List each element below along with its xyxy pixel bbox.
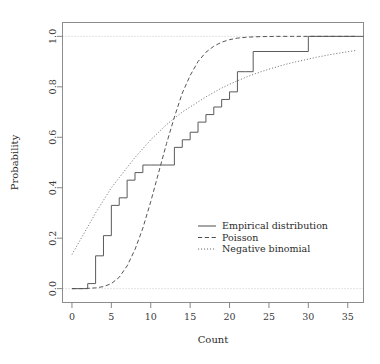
legend-label-2: Negative binomial bbox=[222, 243, 310, 254]
y-tick-label-1: 0.2 bbox=[47, 231, 58, 246]
reference-lines bbox=[63, 36, 364, 288]
legend-label-0: Empirical distribution bbox=[222, 220, 328, 231]
x-tick-label-2: 10 bbox=[145, 311, 157, 322]
y-tick-label-3: 0.6 bbox=[47, 130, 58, 145]
x-tick-label-3: 15 bbox=[184, 311, 196, 322]
x-tick-label-7: 35 bbox=[342, 311, 354, 322]
chart-figure: 051015202530350.00.20.40.60.81.0 CountPr… bbox=[0, 0, 380, 364]
series-poisson bbox=[72, 36, 356, 288]
plot-box bbox=[63, 23, 364, 303]
y-tick-label-0: 0.0 bbox=[47, 281, 58, 296]
chart-legend: Empirical distributionPoissonNegative bi… bbox=[198, 220, 328, 254]
y-tick-label-4: 0.8 bbox=[47, 79, 58, 94]
x-tick-label-5: 25 bbox=[263, 311, 275, 322]
y-tick-label-5: 1.0 bbox=[47, 29, 58, 44]
y-tick-label-2: 0.4 bbox=[47, 180, 58, 195]
y-axis-title: Probability bbox=[9, 134, 20, 190]
data-series bbox=[72, 36, 364, 288]
legend-label-1: Poisson bbox=[222, 232, 258, 243]
series-empirical-distribution bbox=[72, 36, 364, 288]
axis-ticks bbox=[57, 36, 348, 308]
tick-labels: 051015202530350.00.20.40.60.81.0 bbox=[47, 29, 354, 322]
plot-canvas: 051015202530350.00.20.40.60.81.0 CountPr… bbox=[0, 0, 380, 364]
x-tick-label-6: 30 bbox=[302, 311, 314, 322]
x-tick-label-4: 20 bbox=[224, 311, 236, 322]
x-axis-title: Count bbox=[198, 334, 229, 345]
x-tick-label-1: 5 bbox=[108, 311, 114, 322]
plot-frame bbox=[63, 23, 364, 303]
x-tick-label-0: 0 bbox=[69, 311, 75, 322]
